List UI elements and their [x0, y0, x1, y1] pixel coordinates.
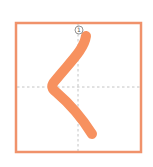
stroke-order-diagram: 1 — [0, 0, 153, 167]
character-canvas: 1 — [0, 0, 153, 167]
character-frame — [16, 23, 141, 152]
stroke-order-number: 1 — [77, 26, 81, 33]
